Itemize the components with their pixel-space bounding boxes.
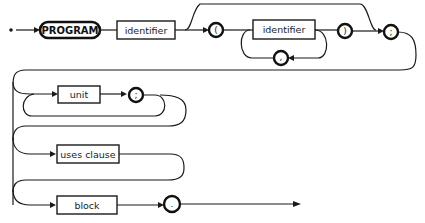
unit-label: unit xyxy=(70,89,89,100)
program-keyword-node: PROGRAM xyxy=(40,22,100,38)
parameter-identifier-node: identifier xyxy=(253,20,315,39)
period-node: . xyxy=(164,196,180,212)
rparen-label: ) xyxy=(343,26,347,36)
wrap-path xyxy=(13,32,416,86)
arrow-icon xyxy=(50,202,56,208)
connector xyxy=(13,138,50,154)
unit-semicolon-label: ; xyxy=(134,90,137,100)
identifier-label: identifier xyxy=(125,25,168,36)
connector xyxy=(13,190,50,205)
uses-clause-node: uses clause xyxy=(57,145,119,163)
parameter-identifier-label: identifier xyxy=(263,24,306,35)
lparen-node: ( xyxy=(209,23,223,37)
uses-clause-label: uses clause xyxy=(60,149,115,160)
unit-semicolon-node: ; xyxy=(129,88,143,102)
entry-dot xyxy=(9,28,13,32)
rparen-node: ) xyxy=(338,24,352,38)
arrow-icon xyxy=(121,91,127,97)
program-syntax-diagram: PROGRAM identifier ( identifier , ) xyxy=(0,0,425,223)
semicolon-node: ; xyxy=(384,25,398,39)
comma-node: , xyxy=(274,51,288,65)
lparen-label: ( xyxy=(214,25,218,35)
block-label: block xyxy=(74,200,100,211)
unit-node: unit xyxy=(58,86,100,103)
exit-arrow-icon xyxy=(293,201,301,207)
period-label: . xyxy=(171,199,174,209)
block-node: block xyxy=(57,196,117,214)
semicolon-label: ; xyxy=(389,27,392,37)
arrow-icon xyxy=(50,151,56,157)
connector xyxy=(13,82,52,94)
comma-label: , xyxy=(280,52,283,62)
arrow-icon xyxy=(52,91,58,97)
identifier-node: identifier xyxy=(117,21,175,39)
program-keyword-label: PROGRAM xyxy=(41,25,98,36)
